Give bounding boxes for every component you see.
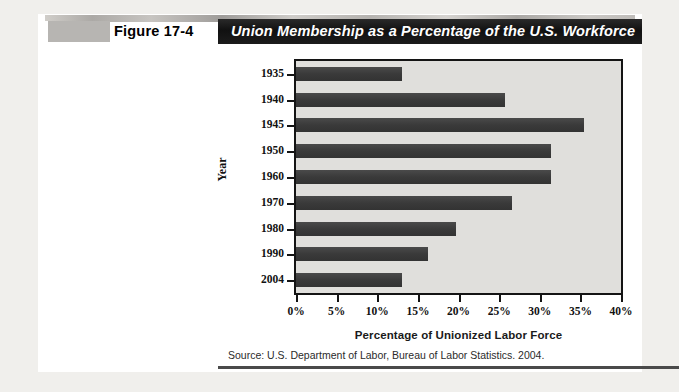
figure-number-label: Figure 17-4: [114, 20, 194, 42]
y-axis-tick-label: 1945: [238, 119, 284, 130]
bar: [296, 170, 551, 184]
x-axis-tick-label: 40%: [601, 305, 641, 317]
figure-color-swatch: [45, 21, 110, 42]
chart-body: Year 19351940194519501960197019801990200…: [218, 44, 642, 358]
x-axis-tick: [459, 295, 461, 302]
x-axis-tick-label: 30%: [520, 305, 560, 317]
x-axis-tick-label: 20%: [439, 305, 479, 317]
bar: [296, 196, 512, 210]
x-axis-tick-label: 35%: [560, 305, 600, 317]
y-axis-tick-label: 1935: [238, 68, 284, 79]
y-axis-tick-label: 1990: [238, 248, 284, 259]
y-axis-tick: [287, 280, 294, 282]
x-axis-tick: [499, 295, 501, 302]
bar: [296, 67, 402, 81]
bar: [296, 144, 551, 158]
x-axis-tick-label: 15%: [398, 305, 438, 317]
source-note: Source: U.S. Department of Labor, Bureau…: [228, 349, 544, 361]
bar: [296, 247, 428, 261]
x-axis-tick-label: 25%: [479, 305, 519, 317]
x-axis-tick: [621, 295, 623, 302]
x-axis-tick: [296, 295, 298, 302]
y-axis-tick: [287, 254, 294, 256]
y-axis-tick-label: 2004: [238, 274, 284, 285]
plot-area: [294, 59, 623, 295]
x-axis-tick-label: 10%: [357, 305, 397, 317]
x-axis-tick-label: 5%: [317, 305, 357, 317]
y-axis-tick: [287, 203, 294, 205]
x-axis-tick: [540, 295, 542, 302]
bar: [296, 273, 402, 287]
y-axis-tick: [287, 177, 294, 179]
y-axis-title: Year: [215, 158, 230, 182]
y-axis-tick-label: 1940: [238, 94, 284, 105]
bar: [296, 118, 584, 132]
source-divider-rule: [218, 366, 679, 369]
x-axis-tick: [418, 295, 420, 302]
x-axis-tick: [580, 295, 582, 302]
x-axis-tick: [337, 295, 339, 302]
y-axis-tick: [287, 100, 294, 102]
y-axis-tick-label: 1970: [238, 197, 284, 208]
x-axis-tick-label: 0%: [276, 305, 316, 317]
x-axis-title: Percentage of Unionized Labor Force: [294, 329, 623, 341]
y-axis-tick: [287, 74, 294, 76]
y-axis-tick: [287, 151, 294, 153]
x-axis-tick: [377, 295, 379, 302]
bar: [296, 93, 505, 107]
y-axis-tick-label: 1980: [238, 223, 284, 234]
figure-title-banner: Union Membership as a Percentage of the …: [218, 19, 642, 44]
figure-title: Union Membership as a Percentage of the …: [231, 20, 635, 43]
y-axis-tick-label: 1960: [238, 171, 284, 182]
bar: [296, 222, 456, 236]
y-axis-tick-label: 1950: [238, 145, 284, 156]
y-axis-tick: [287, 229, 294, 231]
y-axis-tick: [287, 125, 294, 127]
